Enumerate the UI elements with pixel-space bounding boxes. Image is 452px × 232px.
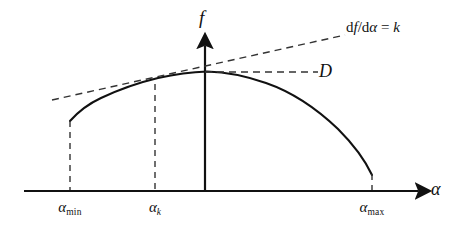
tick-sub-alpha-max: max xyxy=(367,207,384,217)
tick-label-alpha-k: αk xyxy=(149,199,161,217)
tick-base-alpha-min: α xyxy=(58,199,66,215)
tick-sub-alpha-k: k xyxy=(157,207,161,217)
tangent-slope-label: df/dα = k xyxy=(346,20,400,35)
tick-sub-alpha-min: min xyxy=(66,207,81,217)
tangent-line-slope-k xyxy=(52,35,345,100)
tick-label-alpha-min: αmin xyxy=(58,199,81,217)
tick-label-alpha-max: αmax xyxy=(360,199,385,217)
figure-root: f α D df/dα = k αmin αk αmax xyxy=(0,0,452,232)
tick-base-alpha-max: α xyxy=(360,199,368,215)
slope-k: k xyxy=(393,19,400,35)
slope-equals: = xyxy=(377,19,393,35)
tick-base-alpha-k: α xyxy=(149,199,157,215)
slope-d1: d xyxy=(346,19,354,35)
y-axis-label: f xyxy=(199,8,204,27)
x-axis-label: α xyxy=(431,180,440,198)
slope-d2: /d xyxy=(358,19,370,35)
level-line-label-D: D xyxy=(319,62,332,80)
curve-f-alpha xyxy=(70,72,372,176)
